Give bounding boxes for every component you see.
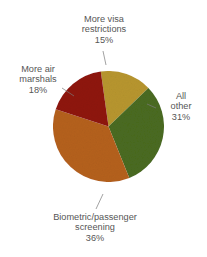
pie-label-all-other-percent: 31% — [158, 112, 204, 122]
pie-label-all-other-line1: All — [158, 91, 204, 101]
pie-label-air-percent: 18% — [2, 85, 74, 95]
pie-label-visa-line2: restrictions — [56, 24, 152, 34]
pie-label-all-other-line2: other — [158, 101, 204, 111]
pie-label-biometric-passenger-screening: Biometric/passenger screening 36% — [21, 212, 169, 243]
pie-label-all-other: All other 31% — [158, 91, 204, 122]
pie-label-biometric-line2: screening — [21, 222, 169, 232]
pie-chart-figure: More visa restrictions 15% More air mars… — [0, 0, 207, 257]
pie-label-biometric-line1: Biometric/passenger — [21, 212, 169, 222]
pie-label-visa-percent: 15% — [56, 35, 152, 45]
pie-label-air-line2: marshals — [2, 74, 74, 84]
pie-label-air-line1: More air — [2, 64, 74, 74]
pie-label-more-visa-restrictions: More visa restrictions 15% — [56, 14, 152, 45]
pie-label-visa-line1: More visa — [56, 14, 152, 24]
pie-label-biometric-percent: 36% — [21, 233, 169, 243]
leader-line-visa — [103, 51, 106, 65]
leader-line-biometric — [96, 194, 103, 209]
pie-label-more-air-marshals: More air marshals 18% — [2, 64, 74, 95]
